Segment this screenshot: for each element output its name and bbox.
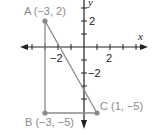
point-c-label: C (1, −5)	[100, 100, 143, 112]
x-axis-label: x	[137, 30, 143, 42]
point-a-label: A (−3, 2)	[24, 5, 66, 17]
point-b	[42, 110, 47, 115]
coordinate-plane: x y −2 2 2 −2 A (−3, 2) B (−3, −5) C (1,…	[0, 0, 156, 135]
y-tick-label-neg2: −2	[88, 67, 101, 79]
x-tick-label-neg2: −2	[50, 52, 63, 64]
point-a	[42, 18, 47, 23]
y-axis-label: y	[87, 0, 93, 8]
y-tick-label-2: 2	[89, 15, 95, 27]
x-axis-right-arrow-icon	[140, 44, 148, 50]
point-c	[94, 110, 99, 115]
y-axis	[81, 0, 87, 129]
point-b-label: B (−3, −5)	[25, 116, 74, 128]
y-axis-down-arrow-icon	[81, 120, 87, 129]
x-tick-label-2: 2	[106, 52, 112, 64]
x-axis-left-arrow-icon	[20, 44, 28, 50]
